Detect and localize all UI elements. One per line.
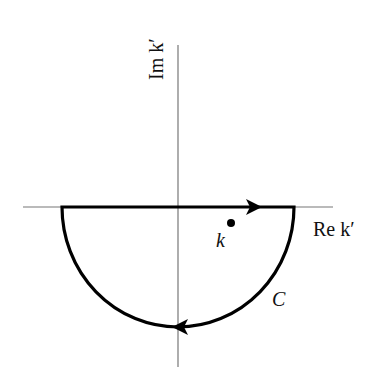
contour-diagram: k C Re k′ Im k′ xyxy=(0,0,387,379)
imag-axis-label: Im k′ xyxy=(145,38,167,80)
pole-point xyxy=(227,219,235,227)
contour-label: C xyxy=(272,288,286,310)
real-axis-label: Re k′ xyxy=(313,218,355,240)
pole-label: k xyxy=(216,229,226,251)
